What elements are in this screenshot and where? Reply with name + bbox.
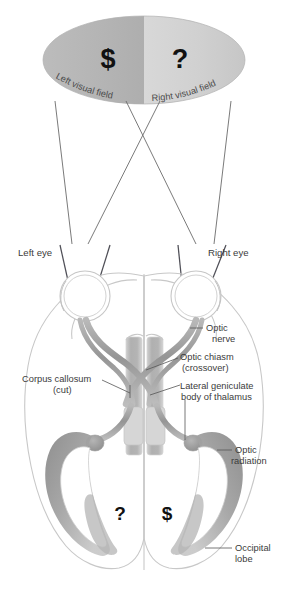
left-eyeball (60, 271, 110, 321)
optic-nerve-label: Optic (206, 323, 228, 333)
occipital-lobe-label: Occipital (235, 543, 271, 553)
optic-nerve-label-line2: nerve (212, 334, 235, 344)
right-field-symbol: ? (172, 44, 189, 74)
field-to-eye-rays (55, 101, 231, 244)
lateral-geniculate-label-line2: body of thalamus (181, 392, 252, 402)
right-hemisphere-symbol: $ (162, 503, 173, 524)
optic-chiasm-label: Optic chiasm (180, 352, 234, 362)
left-eye-label: Left eye (18, 247, 52, 258)
eyeballs-group (60, 271, 221, 321)
diagram-canvas: $ ? Left visual field Right visual field (0, 0, 289, 593)
optic-radiation-label-line2: radiation (231, 456, 267, 466)
left-hemisphere-symbol: ? (114, 503, 126, 524)
ray-right-inner-cross (88, 101, 160, 244)
brain-outline-group (25, 273, 263, 570)
corpus-callosum-label: Corpus callosum (22, 374, 91, 384)
ray-left-inner-cross (126, 101, 196, 244)
right-eyeball (171, 271, 221, 321)
occipital-lobe-label-line2: lobe (235, 554, 253, 564)
visual-field-ellipse: $ ? Left visual field Right visual field (43, 16, 246, 106)
corpus-callosum-label-line2: (cut) (53, 385, 72, 395)
optic-radiation-label: Optic (235, 445, 257, 455)
ray-right-outer (214, 101, 231, 244)
ray-left-outer (55, 101, 72, 244)
lateral-geniculate-label: Lateral geniculate (180, 381, 253, 391)
optic-chiasm-label-line2: (crossover) (182, 363, 229, 373)
right-eye-label: Right eye (208, 247, 249, 258)
optic-nerve-left-crossing (86, 320, 156, 404)
left-field-symbol: $ (100, 44, 115, 74)
visual-pathway-diagram: $ ? Left visual field Right visual field (0, 0, 289, 593)
